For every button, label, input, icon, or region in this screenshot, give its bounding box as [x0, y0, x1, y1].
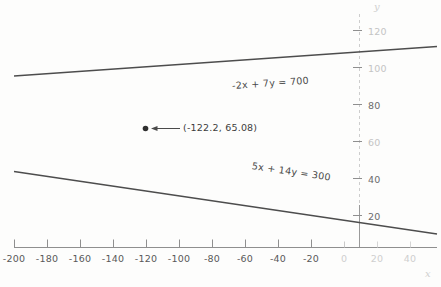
intersection-label: (-122.2, 65.08) — [183, 122, 257, 133]
x-axis-title: x — [425, 268, 431, 279]
chart-figure: -200 -180 -160 -140 -120 -100 -80 -60 -4… — [0, 0, 441, 287]
xtick-label: 20 — [371, 253, 384, 264]
x-axis-ticks — [15, 240, 411, 248]
intersection-arrow — [151, 126, 180, 131]
ytick-label: 20 — [368, 211, 381, 222]
xtick-label: 0 — [341, 253, 347, 264]
xtick-label: -200 — [3, 253, 25, 264]
ytick-label: 100 — [368, 63, 387, 74]
y-axis-ticks — [353, 31, 362, 216]
xtick-label: -160 — [69, 253, 91, 264]
xtick-label: -100 — [168, 253, 190, 264]
xtick-label: -180 — [36, 253, 58, 264]
xtick-label: -140 — [102, 253, 124, 264]
y-axis-title: y — [374, 1, 380, 12]
xtick-label: -40 — [270, 253, 286, 264]
xtick-label: -60 — [237, 253, 253, 264]
xtick-label: -80 — [204, 253, 220, 264]
intersection-marker — [143, 126, 149, 132]
ytick-label: 80 — [368, 100, 381, 111]
ytick-label: 40 — [368, 174, 381, 185]
ytick-label: 120 — [368, 26, 387, 37]
xtick-label: -120 — [135, 253, 157, 264]
xtick-label: -20 — [303, 253, 319, 264]
ytick-label: 60 — [368, 137, 381, 148]
xtick-label: 40 — [404, 253, 417, 264]
